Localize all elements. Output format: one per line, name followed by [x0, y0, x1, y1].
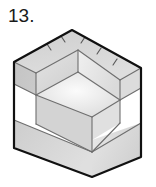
isometric-solid-drawing	[0, 0, 156, 187]
figure-panel: 13.	[0, 0, 156, 187]
